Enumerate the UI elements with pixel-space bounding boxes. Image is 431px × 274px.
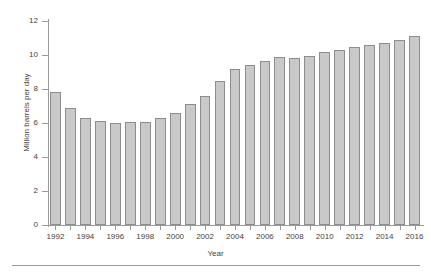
x-tick-label: 1994 <box>68 232 102 241</box>
bar-2007 <box>274 57 285 225</box>
x-tick-label: 2002 <box>188 232 222 241</box>
x-tick-mark <box>100 226 101 230</box>
x-tick-mark <box>280 226 281 230</box>
y-tick-mark <box>42 123 48 124</box>
footer-rule <box>12 265 420 266</box>
bar-2016 <box>409 36 420 225</box>
x-tick-mark <box>220 226 221 230</box>
bar-2004 <box>230 69 241 225</box>
x-tick-label: 2006 <box>248 232 282 241</box>
bar-2015 <box>394 40 405 225</box>
y-tick-mark <box>42 225 48 226</box>
bar-chart-figure: 024681012 199219941996199820002002200420… <box>0 0 431 274</box>
x-tick-label: 1996 <box>98 232 132 241</box>
x-tick-mark <box>295 226 296 230</box>
x-tick-label: 2012 <box>338 232 372 241</box>
bar-1997 <box>125 122 136 225</box>
y-tick-mark <box>42 157 48 158</box>
x-tick-mark <box>415 226 416 230</box>
x-tick-label: 2000 <box>158 232 192 241</box>
bar-2001 <box>185 104 196 225</box>
x-tick-mark <box>325 226 326 230</box>
x-tick-mark <box>310 226 311 230</box>
y-tick-mark <box>42 21 48 22</box>
bar-1994 <box>80 118 91 225</box>
x-tick-label: 2016 <box>398 232 431 241</box>
x-tick-mark <box>175 226 176 230</box>
x-tick-label: 2014 <box>368 232 402 241</box>
bar-2013 <box>364 45 375 225</box>
x-tick-mark <box>340 226 341 230</box>
x-tick-mark <box>370 226 371 230</box>
bar-2014 <box>379 43 390 225</box>
y-tick-mark <box>42 55 48 56</box>
x-tick-mark <box>355 226 356 230</box>
x-tick-mark <box>160 226 161 230</box>
x-tick-mark <box>190 226 191 230</box>
bar-2008 <box>289 58 300 225</box>
x-tick-label: 2008 <box>278 232 312 241</box>
bar-2006 <box>260 61 271 225</box>
x-tick-mark <box>55 226 56 230</box>
x-tick-label: 1998 <box>128 232 162 241</box>
x-tick-mark <box>385 226 386 230</box>
bar-1992 <box>50 92 61 225</box>
bar-1995 <box>95 121 106 225</box>
x-tick-mark <box>85 226 86 230</box>
x-axis-title: Year <box>0 249 431 258</box>
y-tick-mark <box>42 191 48 192</box>
x-tick-label: 1992 <box>38 232 72 241</box>
bar-2002 <box>200 96 211 225</box>
x-tick-mark <box>265 226 266 230</box>
y-axis-line <box>48 19 49 227</box>
bar-1999 <box>155 118 166 225</box>
x-tick-mark <box>250 226 251 230</box>
bar-2009 <box>304 56 315 225</box>
x-tick-mark <box>235 226 236 230</box>
bar-1996 <box>110 123 121 225</box>
x-tick-label: 2010 <box>308 232 342 241</box>
x-tick-mark <box>130 226 131 230</box>
x-tick-mark <box>400 226 401 230</box>
y-tick-label: 0 <box>14 221 38 229</box>
bar-2005 <box>245 65 256 225</box>
x-tick-mark <box>145 226 146 230</box>
y-axis-title: Million barrels per day <box>22 43 31 183</box>
x-axis-line <box>48 225 424 226</box>
y-tick-mark <box>42 89 48 90</box>
bar-1993 <box>65 108 76 225</box>
x-tick-label: 2004 <box>218 232 252 241</box>
y-tick-label: 12 <box>14 17 38 25</box>
y-tick-label: 2 <box>14 187 38 195</box>
bar-2011 <box>334 50 345 225</box>
bar-1998 <box>140 122 151 225</box>
x-tick-mark <box>70 226 71 230</box>
x-tick-mark <box>205 226 206 230</box>
bar-2000 <box>170 113 181 225</box>
x-tick-mark <box>115 226 116 230</box>
bar-2003 <box>215 81 226 225</box>
bar-2010 <box>319 52 330 225</box>
bar-2012 <box>349 47 360 225</box>
